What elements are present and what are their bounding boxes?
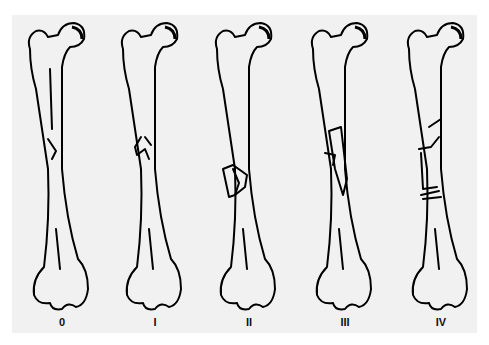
stage-label-2: II bbox=[229, 316, 269, 328]
femur-illustration-icon bbox=[209, 19, 289, 319]
stage-label-0: 0 bbox=[42, 316, 82, 328]
femur-illustration-icon bbox=[401, 19, 481, 319]
femur-stage-0 bbox=[22, 19, 102, 319]
stage-label-1: I bbox=[135, 316, 175, 328]
femur-stage-1 bbox=[115, 19, 195, 319]
stage-label-4: IV bbox=[421, 316, 461, 328]
femur-stage-4 bbox=[401, 19, 481, 319]
stage-label-3: III bbox=[325, 316, 365, 328]
femur-illustration-icon bbox=[115, 19, 195, 319]
femur-illustration-icon bbox=[305, 19, 385, 319]
femur-stage-2 bbox=[209, 19, 289, 319]
figure-panel: 0 I II bbox=[12, 15, 477, 333]
femur-illustration-icon bbox=[22, 19, 102, 319]
femur-stage-3 bbox=[305, 19, 385, 319]
